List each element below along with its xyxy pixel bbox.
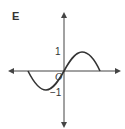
sine-graph: 1 −1 O xyxy=(0,0,125,129)
y-tick-neg1: −1 xyxy=(50,87,62,98)
origin-label: O xyxy=(55,71,62,82)
y-tick-1: 1 xyxy=(55,46,61,57)
